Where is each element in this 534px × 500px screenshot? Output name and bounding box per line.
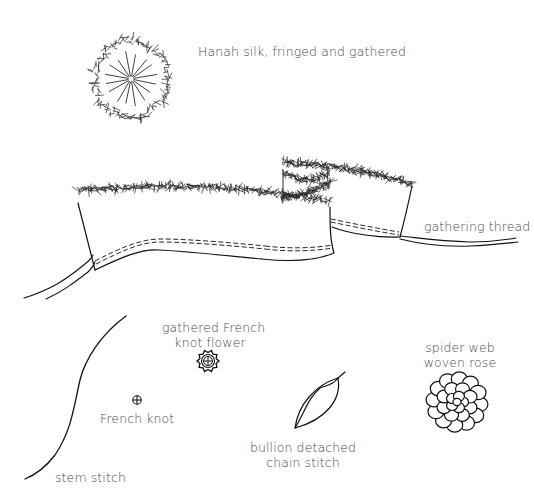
spider-web-label-line1: spider web [420, 340, 500, 355]
gathering-thread-left-icon [24, 255, 95, 299]
hanah-silk-label: Hanah silk, fringed and gathered [198, 44, 406, 59]
bullion-label-line2: chain stitch [248, 455, 358, 470]
french-knot-label: French knot [100, 411, 174, 426]
spider-web-woven-rose-label: spider web woven rose [420, 340, 500, 370]
hanah-silk-rosette-icon [87, 32, 172, 124]
gathered-french-knot-flower-icon [197, 351, 219, 372]
gathered-french-knot-flower-label: gathered French knot flower [162, 320, 258, 350]
spider-web-woven-rose-icon [426, 372, 488, 432]
fringed-ribbon-strip-icon [72, 156, 417, 270]
gathering-thread-right-icon [400, 236, 518, 246]
spider-web-label-line2: woven rose [420, 355, 500, 370]
bullion-detached-chain-stitch-label: bullion detached chain stitch [248, 440, 358, 470]
gathering-thread-label: gathering thread [424, 219, 530, 234]
bullion-detached-chain-stitch-icon [295, 372, 345, 428]
bullion-label-line1: bullion detached [248, 440, 358, 455]
french-knot-icon [133, 396, 141, 404]
stem-stitch-label: stem stitch [55, 470, 126, 485]
stem-stitch-icon [25, 316, 126, 479]
gathered-flower-label-line1: gathered French [162, 320, 258, 335]
diagram-canvas [0, 0, 534, 500]
gathered-flower-label-line2: knot flower [162, 335, 258, 350]
